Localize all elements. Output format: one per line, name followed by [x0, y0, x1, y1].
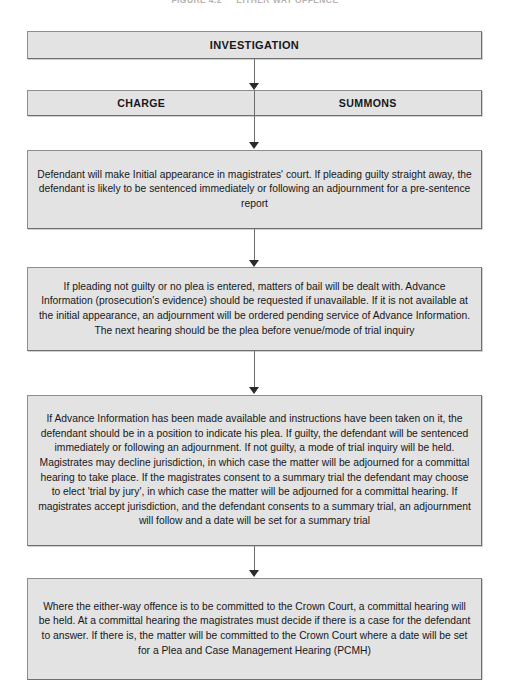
flow-node-initial-appearance-text: Defendant will make Initial appearance i…	[37, 168, 472, 212]
connector-initial-appearance-to-plea-bail	[254, 229, 255, 261]
arrowhead-down-icon	[249, 570, 259, 577]
arrowhead-down-icon	[249, 142, 259, 149]
connector-through-charge-summons	[254, 90, 255, 116]
flow-node-initial-appearance: Defendant will make Initial appearance i…	[27, 150, 482, 229]
flow-node-committal-to-crown-court-text: Where the either-way offence is to be co…	[37, 600, 472, 658]
flow-node-plea-and-bail: If pleading not guilty or no plea is ent…	[27, 267, 482, 351]
flow-node-plea-and-bail-text: If pleading not guilty or no plea is ent…	[37, 280, 472, 338]
arrowhead-down-icon	[249, 83, 259, 90]
flow-node-investigation-text: INVESTIGATION	[37, 38, 472, 53]
connector-charge-summons-to-initial-appearance	[254, 116, 255, 143]
connector-advance-information-to-committal	[254, 546, 255, 571]
flow-node-committal-to-crown-court: Where the either-way offence is to be co…	[27, 578, 482, 680]
flow-node-summons-label: SUMMONS	[255, 97, 482, 109]
flow-node-advance-information: If Advance Information has been made ava…	[27, 395, 482, 546]
arrowhead-down-icon	[249, 260, 259, 267]
arrowhead-down-icon	[249, 387, 259, 394]
connector-investigation-to-charge-summons	[254, 59, 255, 84]
connector-plea-bail-to-advance-information	[254, 351, 255, 388]
flow-node-charge-label: CHARGE	[28, 97, 255, 109]
flow-node-investigation: INVESTIGATION	[27, 31, 482, 59]
flow-node-advance-information-text: If Advance Information has been made ava…	[37, 412, 472, 529]
